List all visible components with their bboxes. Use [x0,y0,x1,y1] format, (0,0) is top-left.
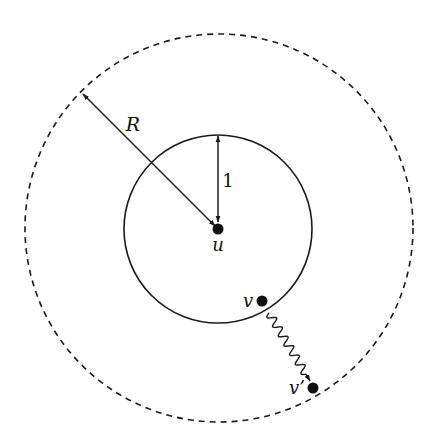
node-u-label: u [212,236,224,254]
node-v-dot [257,296,268,307]
node-v-label: v [243,292,253,310]
diagram-canvas [0,0,434,444]
radius-R-arrow [83,94,215,226]
radius-R-label: R [126,115,140,134]
node-u-dot [213,224,224,235]
node-v-prime-label: v’ [289,379,305,397]
radius-1-label: 1 [222,172,233,190]
wavy-move-arrow [267,313,310,381]
node-v-prime-dot [308,383,319,394]
